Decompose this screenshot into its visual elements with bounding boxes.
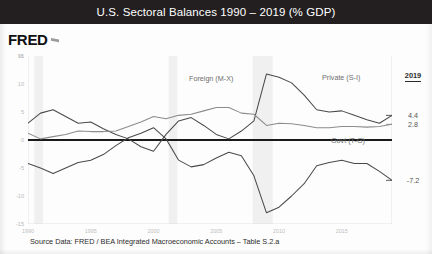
page-title: U.S. Sectoral Balances 1990 – 2019 (% GD… — [97, 6, 336, 18]
fred-logo-text: FRED — [8, 32, 48, 47]
y-axis-tick-label: -10 — [6, 193, 24, 199]
source-note: Source Data: FRED / BEA Integrated Macro… — [30, 237, 279, 246]
y-axis-tick-label: 0 — [6, 137, 24, 143]
x-axis-tick-label: 1995 — [85, 228, 97, 234]
series-label-private-s-i: Private (S-I) — [322, 73, 360, 82]
chart-title-bar: U.S. Sectoral Balances 1990 – 2019 (% GD… — [0, 0, 432, 24]
x-axis-tick-label: 2015 — [336, 228, 348, 234]
y-axis-tick-label: -15 — [6, 221, 24, 227]
fred-flag-icon — [51, 38, 59, 45]
fred-logo: FRED — [8, 32, 59, 47]
y-axis-tick-label: 5 — [6, 109, 24, 115]
x-axis-tick-label: 2005 — [210, 228, 222, 234]
series-label-govt-t-g: Govt (T-G) — [331, 136, 365, 145]
value-readout: -7.2 — [398, 176, 428, 185]
y-axis-tick-label: -5 — [6, 165, 24, 171]
scan-edge-bottom — [0, 249, 432, 254]
value-column: 2019 — [396, 64, 430, 82]
value-readout: 2.8 — [398, 120, 428, 129]
y-axis-unit-label: % — [18, 53, 23, 59]
value-readout: 4.4 — [398, 111, 428, 120]
value-column-heading: 2019 — [405, 72, 421, 82]
series-label-foreign-m-x: Foreign (M-X) — [189, 74, 233, 83]
y-axis-tick-label: 10 — [6, 81, 24, 87]
x-axis-tick-label: 1990 — [22, 228, 34, 234]
x-axis-tick-label: 2000 — [148, 228, 160, 234]
x-axis-tick-label: 2010 — [273, 228, 285, 234]
scan-edge-right — [426, 24, 432, 254]
chart-page: U.S. Sectoral Balances 1990 – 2019 (% GD… — [0, 0, 432, 254]
